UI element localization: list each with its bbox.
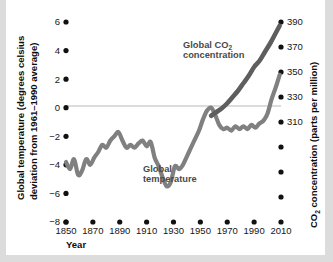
x-tick-dot: [144, 219, 149, 224]
annotation-co2-line2: concentration: [183, 50, 245, 60]
y-tick-label: 4: [55, 45, 60, 56]
x-tick-label: 1990: [244, 225, 265, 236]
x-tick-dot: [198, 219, 203, 224]
climate-line-chart: 6420−2−4−6−8 390370350330310 18501870189…: [0, 0, 333, 262]
y-tick-dot: [63, 48, 68, 53]
svg-text:CO2 concentration (parts per m: CO2 concentration (parts per million): [308, 62, 321, 228]
x-tick-label: 1910: [136, 225, 157, 236]
x-tick-dot: [225, 219, 230, 224]
y-tick-dot: [63, 77, 68, 82]
annotation-temperature-line2: temperature: [143, 174, 197, 184]
x-tick-dot: [171, 219, 176, 224]
y2-tick-label: 330: [287, 91, 303, 102]
y2-tick-dot: [278, 44, 283, 49]
y-tick-dot: [63, 19, 68, 24]
y-tick-dot: [63, 105, 68, 110]
x-tick-dot: [252, 219, 257, 224]
y2-tick-dot: [278, 169, 283, 174]
y-tick-label: 6: [55, 16, 60, 27]
x-axis-ticks: 185018701890191019301950197019902010: [55, 219, 291, 236]
x-axis-title: Year: [66, 239, 86, 250]
y2-tick-dot: [278, 119, 283, 124]
x-tick-dot: [63, 219, 68, 224]
annotation-co2-line1: Global CO: [183, 40, 228, 50]
x-tick-label: 1870: [82, 225, 103, 236]
y2-tick-dot: [278, 94, 283, 99]
x-tick-dot: [278, 219, 283, 224]
x-tick-label: 1850: [55, 225, 76, 236]
y-tick-dot: [63, 191, 68, 196]
y-tick-dot: [63, 134, 68, 139]
y2-tick-label: 350: [287, 66, 303, 77]
x-tick-label: 1970: [217, 225, 238, 236]
y-tick-label: −6: [49, 188, 60, 199]
y-axis-title-line2: deviation from 1961–1990 average): [28, 43, 39, 200]
y2-tick-label: 370: [287, 41, 303, 52]
x-tick-label: 1950: [190, 225, 211, 236]
annotation-temperature-line1: Global: [143, 164, 172, 174]
y2-axis-title-suffix: concentration (parts per million): [308, 62, 319, 210]
y-tick-label: −2: [49, 131, 60, 142]
y2-tick-dot: [278, 194, 283, 199]
y-tick-label: −4: [49, 159, 60, 170]
y2-axis-title: CO2 concentration (parts per million): [308, 62, 321, 228]
x-tick-dot: [117, 219, 122, 224]
y2-tick-label: 390: [287, 16, 303, 27]
x-tick-label: 1930: [163, 225, 184, 236]
x-tick-label: 2010: [270, 225, 291, 236]
chart-figure: 6420−2−4−6−8 390370350330310 18501870189…: [0, 0, 333, 262]
y-tick-label: 2: [55, 74, 60, 85]
y2-axis-title-prefix: CO: [308, 214, 319, 228]
y-axis-title-line1: Global temperature (degrees celsius: [15, 36, 26, 200]
y2-tick-dot: [278, 144, 283, 149]
x-tick-label: 1890: [109, 225, 130, 236]
y-tick-label: 0: [55, 102, 60, 113]
y2-tick-label: 310: [287, 116, 303, 127]
x-tick-dot: [90, 219, 95, 224]
